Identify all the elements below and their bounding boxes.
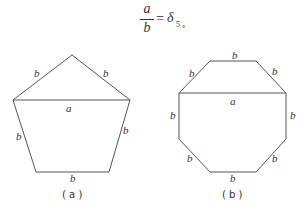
octagon-side-label: b	[189, 67, 195, 79]
pentagon-side-label: b	[123, 124, 129, 136]
octagon-side-label: b	[232, 49, 238, 61]
pentagon-figure: b b a b b b ( a )	[13, 55, 130, 200]
pentagon-diagonal-label: a	[66, 102, 72, 114]
octagon-side-label: b	[187, 152, 193, 164]
octagon-diagonal-label: a	[230, 95, 236, 107]
octagon-side-label: b	[272, 152, 278, 164]
octagon-side-label: b	[272, 65, 278, 77]
octagon-figure: b b b a b b b b b ( b )	[170, 49, 296, 200]
octagon-side-label: b	[290, 109, 296, 121]
pentagon-side-label: b	[70, 172, 76, 184]
octagon-outline	[179, 61, 286, 172]
pentagon-outline	[13, 55, 130, 172]
caption-b: ( b )	[222, 189, 243, 200]
octagon-side-label: b	[170, 109, 176, 121]
pentagon-side-label: b	[16, 130, 22, 142]
caption-a: ( a )	[62, 189, 82, 200]
diagram-canvas: b b a b b b ( a ) b b b a b b b b b ( b …	[0, 0, 307, 212]
pentagon-side-label: b	[103, 67, 109, 79]
pentagon-side-label: b	[34, 67, 40, 79]
octagon-side-label: b	[230, 172, 236, 184]
